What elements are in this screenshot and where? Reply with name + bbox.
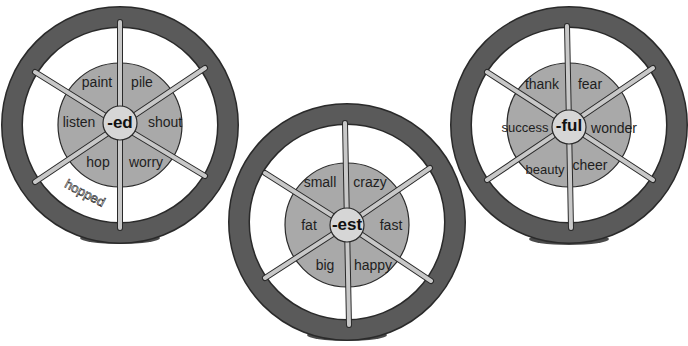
root-word: hop <box>86 155 109 169</box>
root-word: success <box>502 121 549 134</box>
root-word: crazy <box>353 175 386 189</box>
suffix-label: -est <box>332 216 362 233</box>
root-word: beauty <box>525 163 564 176</box>
wheel-est: -est small crazy fast happy big fat <box>225 95 465 346</box>
wheel-ed: -ed paint pile shout worry hop listen ho… <box>0 0 240 250</box>
root-word: shout <box>148 115 182 129</box>
root-word: cheer <box>572 158 607 172</box>
root-word: wonder <box>591 121 637 135</box>
root-word: listen <box>63 115 96 129</box>
root-word: big <box>316 258 335 272</box>
root-word: thank <box>525 77 559 91</box>
root-word: worry <box>129 155 163 169</box>
suffix-label: -ful <box>556 117 582 134</box>
wheel-ful: -ful thank fear wonder cheer beauty succ… <box>445 0 688 250</box>
suffix-label: -ed <box>107 114 133 131</box>
root-word: small <box>304 175 337 189</box>
root-word: fear <box>578 77 602 91</box>
root-word: fat <box>301 218 317 232</box>
root-word: fast <box>380 218 403 232</box>
root-word: paint <box>82 75 112 89</box>
root-word: happy <box>354 258 392 272</box>
root-word: pile <box>131 75 153 89</box>
